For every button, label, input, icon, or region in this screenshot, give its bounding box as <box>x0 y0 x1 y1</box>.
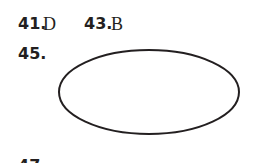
ellipse-figure <box>0 0 261 163</box>
question-number-47: 47. <box>18 158 46 163</box>
